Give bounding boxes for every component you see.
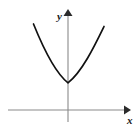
x-axis-label: x	[126, 114, 133, 126]
parabola-figure: x y	[0, 0, 140, 131]
y-axis-label: y	[55, 10, 62, 22]
graph-canvas: x y	[0, 0, 140, 131]
figure-background	[0, 0, 140, 131]
